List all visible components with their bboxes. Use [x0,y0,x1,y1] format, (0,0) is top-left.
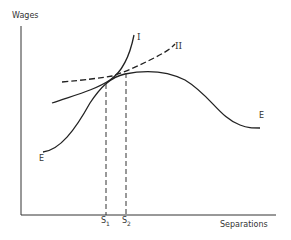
y-axis-label: Wages [12,12,38,20]
s1-subscript: 1 [106,220,110,227]
curve-e-end-label: E [259,112,264,120]
curve-i [52,35,134,103]
x-axis-label: Separations [220,221,268,229]
s1-label: S1 [101,217,110,227]
curve-i-label: I [137,33,141,42]
s2-label: S2 [122,217,131,227]
curve-e-start-label: E [39,155,44,163]
wage-separation-diagram [0,0,291,240]
s2-subscript: 2 [127,220,131,227]
curve-ii-label: II [175,42,182,51]
curve-e [43,72,260,152]
